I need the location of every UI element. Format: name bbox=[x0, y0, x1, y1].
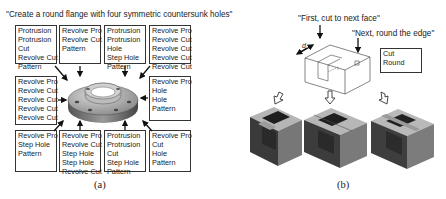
hollow-arrows bbox=[274, 91, 388, 104]
flange-icon bbox=[68, 83, 138, 123]
arrow-down-left-icon bbox=[274, 92, 283, 104]
result-block-3-icon bbox=[371, 109, 434, 169]
arrow-down-right-icon bbox=[379, 92, 388, 104]
panel-b-caption-first: "First, cut to next face" bbox=[298, 14, 380, 23]
result-block-1-icon bbox=[250, 107, 302, 166]
arrow-down-icon bbox=[325, 91, 335, 104]
panel-b-arrows bbox=[297, 25, 358, 54]
feature-line: Round bbox=[383, 59, 419, 68]
feature-box-cut-round: Cut Round bbox=[380, 48, 422, 73]
panel-b-caption-next: "Next, round the edge" bbox=[352, 29, 434, 38]
dimension-label: d bbox=[302, 42, 306, 49]
panel-a-label: (a) bbox=[94, 179, 106, 190]
wireframe-block-icon bbox=[305, 45, 370, 94]
panel-b-label: (b) bbox=[337, 179, 349, 190]
result-block-2-icon bbox=[304, 108, 367, 168]
